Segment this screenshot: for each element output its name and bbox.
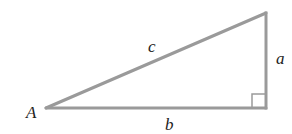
leg-b-label: b <box>165 115 174 134</box>
right-angle-marker <box>252 94 266 108</box>
triangle <box>46 13 266 108</box>
hypotenuse-c <box>46 13 266 108</box>
vertex-label-a-upper: A <box>25 103 37 122</box>
hypotenuse-label: c <box>148 37 156 56</box>
right-triangle-diagram: A c a b <box>0 0 292 134</box>
leg-a-label: a <box>276 49 285 68</box>
